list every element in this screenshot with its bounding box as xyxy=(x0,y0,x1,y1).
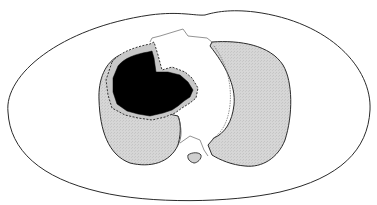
body-outline xyxy=(8,11,370,201)
diagram-canvas xyxy=(0,0,377,205)
thorax-diagram xyxy=(0,0,377,205)
